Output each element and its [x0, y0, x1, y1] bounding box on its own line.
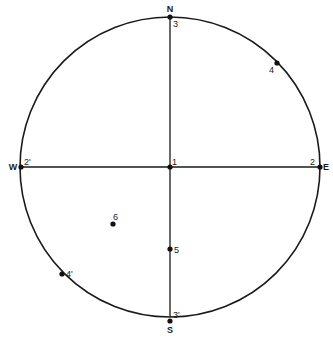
point-marker-icon	[274, 60, 279, 65]
cardinals-layer: NSWE	[9, 4, 329, 335]
cardinal-label-e: E	[323, 162, 329, 172]
stereonet-svg: 342'12654'3' NSWE	[0, 0, 333, 339]
point-marker-icon	[167, 246, 172, 251]
point-marker-icon	[167, 318, 172, 323]
point-marker-icon	[18, 164, 23, 169]
point-label: 4	[269, 65, 274, 75]
point-marker-icon	[59, 271, 64, 276]
point-p5: 5	[167, 245, 179, 255]
point-label: 3	[173, 19, 178, 29]
cardinal-label-n: N	[167, 4, 174, 14]
point-label: 1	[172, 157, 177, 167]
point-label: 2'	[24, 157, 31, 167]
point-label: 4'	[66, 269, 73, 279]
stereonet-diagram: 342'12654'3' NSWE	[0, 0, 333, 339]
point-label: 3'	[173, 310, 180, 320]
point-marker-icon	[317, 164, 322, 169]
cardinal-label-w: W	[9, 162, 18, 172]
point-p4: 4	[269, 60, 280, 75]
point-marker-icon	[167, 14, 172, 19]
point-label: 2	[310, 157, 315, 167]
point-label: 6	[113, 212, 118, 222]
point-label: 5	[174, 245, 179, 255]
cardinal-label-s: S	[167, 325, 173, 335]
point-p1: 1	[167, 157, 177, 170]
point-marker-icon	[110, 221, 115, 226]
point-p6: 6	[110, 212, 118, 227]
